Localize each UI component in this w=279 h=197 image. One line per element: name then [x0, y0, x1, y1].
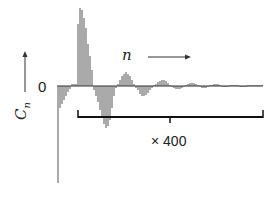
scale-annotation: × 400 — [151, 133, 186, 149]
y-axis-label-sub: n — [21, 102, 32, 108]
y-axis-arrow-icon — [23, 51, 28, 92]
chart-canvas — [0, 0, 279, 197]
x-axis-arrow-icon — [148, 55, 191, 60]
y-axis-label: Cn — [12, 102, 32, 120]
x-axis-label: n — [122, 46, 132, 64]
zero-label: 0 — [38, 78, 46, 95]
bar-series — [58, 8, 262, 183]
y-axis-label-main: C — [12, 109, 30, 120]
